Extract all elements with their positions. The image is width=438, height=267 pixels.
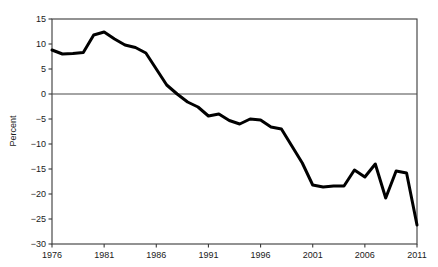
x-axis-tick-labels: 19761981198619911996200120062011 — [42, 250, 427, 260]
y-tick-label: −25 — [31, 214, 46, 224]
y-axis-tick-labels: 151050−5−10−15−20−25−30 — [31, 14, 46, 249]
y-tick-label: −5 — [36, 114, 46, 124]
line-chart: 151050−5−10−15−20−25−30 1976198119861991… — [0, 0, 438, 267]
x-tick-label: 2006 — [355, 250, 375, 260]
x-tick-label: 2011 — [407, 250, 426, 260]
y-tick-label: 5 — [41, 64, 46, 74]
x-tick-label: 2001 — [303, 250, 323, 260]
x-tick-label: 1991 — [198, 250, 218, 260]
y-tick-label: 10 — [36, 39, 46, 49]
y-axis-title: Percent — [8, 115, 18, 147]
y-tick-label: 0 — [41, 89, 46, 99]
x-tick-label: 1996 — [251, 250, 271, 260]
y-tick-label: −20 — [31, 189, 46, 199]
chart-container: 151050−5−10−15−20−25−30 1976198119861991… — [0, 0, 438, 267]
x-tick-label: 1981 — [94, 250, 114, 260]
y-tick-label: 15 — [36, 14, 46, 24]
y-tick-label: −10 — [31, 139, 46, 149]
y-tick-label: −30 — [31, 239, 46, 249]
y-tick-label: −15 — [31, 164, 46, 174]
plot-background — [52, 19, 417, 244]
x-tick-label: 1986 — [146, 250, 166, 260]
x-tick-label: 1976 — [42, 250, 62, 260]
